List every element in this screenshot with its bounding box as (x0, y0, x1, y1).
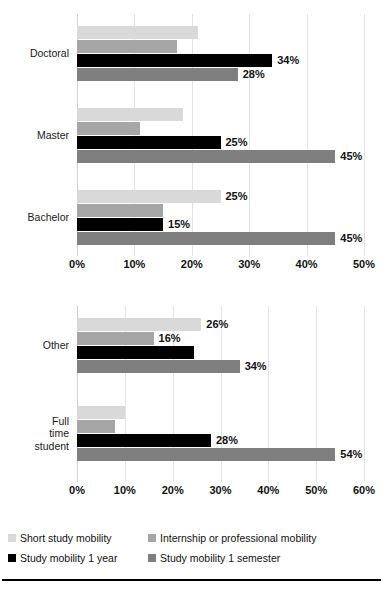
bar-value-label: 26% (206, 318, 228, 331)
chart-page: DoctoralMasterBachelor 34%28%25%45%25%15… (0, 0, 383, 591)
category-label: Full time student (35, 415, 69, 453)
chart-1-plot-area: 34%28%25%45%25%15%45% (77, 14, 364, 256)
legend-label: Study mobility 1 year (20, 552, 117, 564)
legend-swatch-icon (148, 554, 156, 562)
bar-value-label: 54% (340, 448, 362, 461)
bar (77, 448, 335, 461)
bar (77, 420, 115, 433)
bar-value-label: 45% (340, 150, 362, 163)
bar (77, 136, 221, 149)
legend-label: Short study mobility (20, 532, 112, 544)
x-tick-label: 50% (305, 484, 327, 496)
bar (77, 204, 163, 217)
bar (77, 68, 238, 81)
legend-swatch-icon (8, 554, 16, 562)
x-tick-label: 50% (353, 258, 375, 270)
bar (77, 346, 194, 359)
x-tick-label: 10% (123, 258, 145, 270)
category-label: Doctoral (30, 47, 69, 60)
bar-value-label: 16% (159, 332, 181, 345)
gridline-20pct (192, 14, 193, 256)
x-tick-label: 20% (162, 484, 184, 496)
bar-value-label: 34% (277, 54, 299, 67)
bar (77, 218, 163, 231)
bar (77, 318, 201, 331)
bar-value-label: 28% (243, 68, 265, 81)
category-label: Other (43, 339, 69, 352)
legend-label: Internship or professional mobility (160, 532, 316, 544)
bar-value-label: 34% (245, 360, 267, 373)
category-label: Bachelor (28, 211, 69, 224)
bar (77, 360, 240, 373)
chart-education-level: DoctoralMasterBachelor 34%28%25%45%25%15… (0, 14, 383, 276)
x-tick-label: 10% (114, 484, 136, 496)
bar (77, 190, 221, 203)
bar (77, 150, 335, 163)
gridline-50pct (364, 14, 365, 256)
bar (77, 54, 272, 67)
chart-1-x-axis: 0%10%20%30%40%50% (0, 258, 383, 276)
chart-2-x-axis: 0%10%20%30%40%50%60% (0, 484, 383, 502)
gridline-60pct (364, 306, 365, 482)
bar (77, 434, 211, 447)
bar-value-label: 25% (226, 136, 248, 149)
x-tick-label: 60% (353, 484, 375, 496)
chart-2-plot-area: 26%16%34%28%54% (77, 306, 364, 482)
x-tick-label: 20% (181, 258, 203, 270)
x-tick-label: 0% (69, 258, 85, 270)
x-tick-label: 40% (257, 484, 279, 496)
bar (77, 108, 183, 121)
x-tick-label: 30% (238, 258, 260, 270)
chart-legend: Short study mobilityInternship or profes… (0, 532, 383, 572)
bar (77, 332, 154, 345)
gridline-30pct (249, 14, 250, 256)
legend-item[interactable]: Study mobility 1 year (8, 552, 117, 564)
footer-rule (2, 579, 381, 581)
bar-value-label: 25% (226, 190, 248, 203)
legend-swatch-icon (8, 534, 16, 542)
gridline-40pct (307, 14, 308, 256)
legend-label: Study mobility 1 semester (160, 552, 280, 564)
bar-value-label: 45% (340, 232, 362, 245)
bar (77, 406, 125, 419)
legend-item[interactable]: Study mobility 1 semester (148, 552, 280, 564)
bar (77, 26, 198, 39)
legend-item[interactable]: Internship or professional mobility (148, 532, 316, 544)
bar (77, 232, 335, 245)
legend-swatch-icon (148, 534, 156, 542)
bar-value-label: 28% (216, 434, 238, 447)
x-tick-label: 30% (209, 484, 231, 496)
legend-item[interactable]: Short study mobility (8, 532, 112, 544)
bar (77, 122, 140, 135)
x-tick-label: 0% (69, 484, 85, 496)
chart-student-status: OtherFull time student 26%16%34%28%54% 0… (0, 306, 383, 518)
bar (77, 40, 177, 53)
category-label: Master (37, 129, 69, 142)
bar-value-label: 15% (168, 218, 190, 231)
x-tick-label: 40% (296, 258, 318, 270)
